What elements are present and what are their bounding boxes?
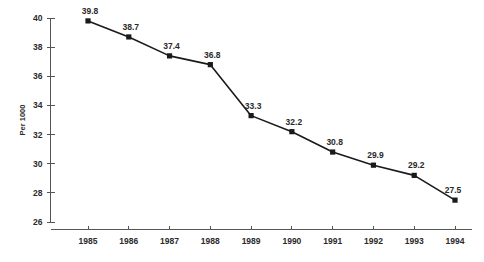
x-axis-tick-labels: 1985198619871988198919901991199219931994 [79, 236, 465, 246]
data-point-marker [167, 53, 172, 58]
x-axis-ticks [88, 226, 455, 230]
x-axis-tick-label: 1994 [446, 236, 465, 246]
data-point-label: 36.8 [204, 50, 221, 60]
data-point-label: 37.4 [163, 41, 180, 51]
x-axis-tick-label: 1989 [242, 236, 261, 246]
series-value-labels: 39.838.737.436.833.332.230.829.929.227.5 [82, 6, 462, 195]
data-point-marker [249, 113, 254, 118]
x-axis-tick-label: 1990 [282, 236, 301, 246]
data-point-marker [330, 149, 335, 154]
data-point-marker [452, 198, 457, 203]
y-axis-tick-label: 36 [33, 71, 43, 81]
y-axis-tick-label: 28 [33, 188, 43, 198]
line-chart: 2628303234363840 Per 1000 19851986198719… [0, 0, 484, 262]
x-axis-tick-label: 1985 [79, 236, 98, 246]
data-point-marker [208, 62, 213, 67]
y-axis-tick-label: 34 [33, 100, 43, 110]
data-point-label: 39.8 [82, 6, 99, 16]
x-axis-tick-label: 1991 [323, 236, 342, 246]
x-axis-tick-label: 1988 [201, 236, 220, 246]
data-point-marker [85, 18, 90, 23]
data-point-label: 30.8 [326, 137, 343, 147]
data-point-marker [371, 163, 376, 168]
data-point-marker [126, 34, 131, 39]
data-point-marker [412, 173, 417, 178]
chart-canvas: 2628303234363840 Per 1000 19851986198719… [0, 0, 484, 262]
y-axis-tick-label: 30 [33, 159, 43, 169]
plot-area: 39.838.737.436.833.332.230.829.929.227.5 [82, 6, 462, 203]
data-point-marker [289, 129, 294, 134]
series-line [88, 21, 455, 200]
x-axis-tick-label: 1993 [405, 236, 424, 246]
y-axis-tick-label: 38 [33, 42, 43, 52]
x-axis-tick-label: 1987 [160, 236, 179, 246]
series-markers [85, 18, 457, 202]
y-axis: 2628303234363840 Per 1000 [18, 13, 55, 227]
data-point-label: 32.2 [286, 117, 303, 127]
data-point-label: 38.7 [123, 22, 140, 32]
data-point-label: 29.2 [408, 160, 425, 170]
data-point-label: 29.9 [367, 150, 384, 160]
x-axis: 1985198619871988198919901991199219931994 [51, 226, 473, 246]
data-point-label: 27.5 [445, 185, 462, 195]
y-axis-tick-label: 26 [33, 217, 43, 227]
y-axis-title: Per 1000 [18, 105, 27, 136]
y-axis-tick-label: 40 [33, 13, 43, 23]
y-axis-tick-label: 32 [33, 130, 43, 140]
y-axis-tick-labels: 2628303234363840 [33, 13, 43, 227]
data-point-label: 33.3 [245, 101, 262, 111]
x-axis-tick-label: 1986 [119, 236, 138, 246]
x-axis-tick-label: 1992 [364, 236, 383, 246]
